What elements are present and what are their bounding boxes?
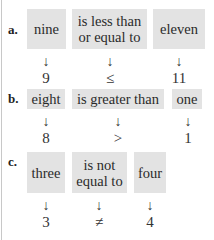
down-arrow-icon: ↓ xyxy=(178,115,198,129)
row-c-word-2: is not equal to xyxy=(72,152,127,193)
row-b-symbol-1: 8 xyxy=(31,130,61,146)
row-c-symbol-2: ≠ xyxy=(84,214,114,230)
row-b-label: b. xyxy=(8,91,18,107)
row-a-label: a. xyxy=(8,22,18,38)
down-arrow-icon: ↓ xyxy=(36,199,56,213)
row-b-word-3: one xyxy=(172,89,202,109)
down-arrow-icon: ↓ xyxy=(169,55,189,69)
left-margin-rule xyxy=(1,0,2,240)
row-a-symbol-3: 11 xyxy=(164,70,194,86)
row-c-word-1: three xyxy=(27,152,65,193)
down-arrow-icon: ↓ xyxy=(89,199,109,213)
row-a-word-1: nine xyxy=(27,9,66,49)
row-a-symbol-2: ≤ xyxy=(95,70,125,86)
row-b-symbol-2: > xyxy=(103,130,133,146)
row-a-word-2: is less than or equal to xyxy=(72,9,147,49)
down-arrow-icon: ↓ xyxy=(108,115,128,129)
row-c-symbol-1: 3 xyxy=(31,214,61,230)
row-b-symbol-3: 1 xyxy=(173,130,203,146)
down-arrow-icon: ↓ xyxy=(36,55,56,69)
row-a-word-3: eleven xyxy=(153,9,205,49)
down-arrow-icon: ↓ xyxy=(100,55,120,69)
row-c-label: c. xyxy=(8,154,17,170)
down-arrow-icon: ↓ xyxy=(140,199,160,213)
row-b-word-2: is greater than xyxy=(72,89,164,109)
row-b-word-1: eight xyxy=(27,89,65,109)
row-c-symbol-3: 4 xyxy=(135,214,165,230)
row-a-symbol-1: 9 xyxy=(31,70,61,86)
down-arrow-icon: ↓ xyxy=(36,115,56,129)
row-c-word-3: four xyxy=(134,152,166,193)
